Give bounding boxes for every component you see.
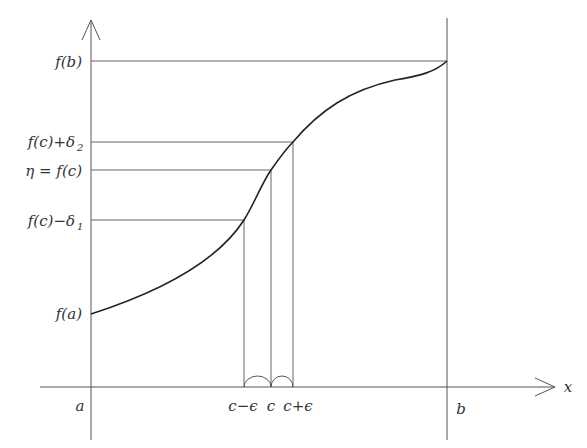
label-c-plus-epsilon: c+ϵ xyxy=(283,397,313,415)
epsilon-arc-right xyxy=(271,376,293,387)
label-x-axis: x xyxy=(564,378,573,396)
label-fc-plus-delta2: f(c)+δ xyxy=(27,133,75,151)
label-c-minus-epsilon: c−ϵ xyxy=(228,397,258,415)
label-c: c xyxy=(267,397,276,415)
label-fa: f(a) xyxy=(55,305,82,323)
label-fc-plus-sub: 2 xyxy=(76,142,83,153)
function-curve xyxy=(91,61,447,314)
label-b: b xyxy=(456,400,466,418)
label-fc-minus-sub: 1 xyxy=(77,221,83,232)
label-fc-minus-delta1: f(c)−δ xyxy=(27,212,75,230)
label-a: a xyxy=(76,397,85,415)
epsilon-arc-left xyxy=(244,376,271,387)
label-eta: η = f(c) xyxy=(25,162,82,180)
label-fb: f(b) xyxy=(54,53,82,71)
continuity-diagram: f(b) f(c)+δ 2 η = f(c) f(c)−δ 1 f(a) a c… xyxy=(0,0,587,448)
